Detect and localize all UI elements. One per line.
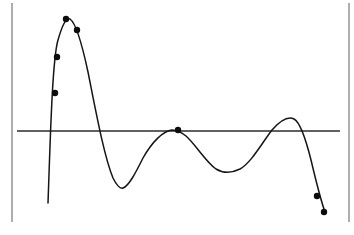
plot-canvas bbox=[0, 0, 354, 235]
data-point-marker[interactable] bbox=[74, 27, 80, 33]
curve-series bbox=[48, 19, 325, 212]
data-point-marker[interactable] bbox=[314, 193, 320, 199]
data-point-marker[interactable] bbox=[52, 90, 58, 96]
curve-line bbox=[48, 19, 325, 212]
data-point-marker[interactable] bbox=[321, 209, 327, 215]
figure-container bbox=[0, 0, 354, 235]
data-point-marker[interactable] bbox=[175, 127, 181, 133]
data-point-marker[interactable] bbox=[54, 54, 60, 60]
frame-rules bbox=[12, 3, 349, 222]
data-point-marker[interactable] bbox=[63, 16, 69, 22]
data-point-markers bbox=[52, 16, 327, 215]
